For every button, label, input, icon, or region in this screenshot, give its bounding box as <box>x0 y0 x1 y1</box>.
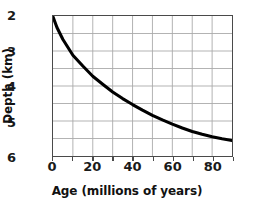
y-tick-label: 2 <box>0 9 16 22</box>
x-axis-title: Age (millions of years) <box>0 184 254 198</box>
tick-mark <box>213 157 214 161</box>
tick-mark <box>173 157 174 161</box>
depth-curve <box>53 16 232 156</box>
tick-mark <box>132 157 133 161</box>
tick-mark <box>153 157 154 161</box>
tick-mark <box>112 157 113 161</box>
x-tick-label: 80 <box>198 160 228 173</box>
depth-vs-age-chart: 23456 020406080 Depth (km) Age (millions… <box>0 0 254 210</box>
tick-mark <box>92 157 93 161</box>
tick-mark <box>72 157 73 161</box>
tick-mark <box>233 157 234 161</box>
tick-mark <box>52 157 53 161</box>
x-tick-label: 40 <box>117 160 147 173</box>
x-tick-label: 20 <box>77 160 107 173</box>
plot-area <box>52 15 233 157</box>
y-axis-title: Depth (km) <box>1 48 15 124</box>
tick-mark <box>193 157 194 161</box>
y-tick-label: 6 <box>0 151 16 164</box>
x-tick-label: 60 <box>158 160 188 173</box>
x-tick-label: 0 <box>37 160 67 173</box>
